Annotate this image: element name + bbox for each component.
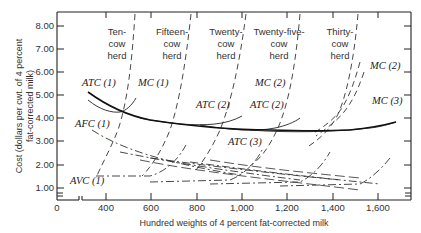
svg-text:1,000: 1,000 [230, 202, 254, 213]
svg-text:Ten-: Ten- [108, 26, 126, 37]
long-run-envelope-curve [88, 92, 396, 131]
svg-text:cow: cow [218, 38, 235, 49]
label-mc-2b: MC (2) [369, 60, 401, 72]
svg-text:1,200: 1,200 [275, 202, 299, 213]
curve-labels: ATC (1) MC (1) AFC (1) AVC (1) ATC (2) A… [69, 60, 403, 187]
label-atc-1: ATC (1) [81, 77, 116, 89]
svg-text:7.00: 7.00 [36, 43, 55, 54]
svg-text:1,400: 1,400 [321, 202, 345, 213]
svg-text:5.00: 5.00 [36, 89, 55, 100]
svg-text:Fifteen-: Fifteen- [156, 26, 188, 37]
svg-text:400: 400 [98, 202, 114, 213]
label-mc-3: MC (3) [371, 95, 403, 107]
herd-labels: Ten- cow herd Fifteen- cow herd Twenty- … [107, 26, 353, 61]
svg-text:cow: cow [332, 38, 349, 49]
svg-text:8.00: 8.00 [36, 20, 55, 31]
svg-text:herd: herd [216, 50, 235, 61]
svg-text:fat-corrected milk): fat-corrected milk) [25, 70, 35, 142]
label-mc-2a: MC (2) [254, 77, 286, 89]
svg-text:cow: cow [109, 38, 126, 49]
cost-curves-chart: 8.00 7.00 6.00 5.00 4.00 3.00 2.00 1.00 … [0, 0, 421, 233]
herd-label-thirty: Thirty- cow herd [327, 26, 354, 61]
svg-text:herd: herd [330, 50, 349, 61]
svg-text:6.00: 6.00 [36, 66, 55, 77]
svg-text:Twenty-five-: Twenty-five- [253, 26, 304, 37]
avc-curves [96, 145, 390, 186]
svg-text:Cost (dollars per cwt. of 4 pe: Cost (dollars per cwt. of 4 percent [14, 38, 24, 173]
svg-text:3.00: 3.00 [36, 135, 55, 146]
svg-text:4.00: 4.00 [36, 112, 55, 123]
svg-text:0: 0 [54, 202, 59, 213]
herd-label-twenty-five: Twenty-five- cow herd [253, 26, 304, 61]
svg-text:1.00: 1.00 [36, 182, 55, 193]
svg-text:Thirty-: Thirty- [327, 26, 354, 37]
y-tick-labels: 8.00 7.00 6.00 5.00 4.00 3.00 2.00 1.00 [36, 20, 55, 193]
label-atc-3: ATC (3) [227, 136, 262, 148]
herd-label-twenty: Twenty- cow herd [209, 26, 242, 61]
svg-text:herd: herd [162, 50, 181, 61]
svg-text:cow: cow [164, 38, 181, 49]
svg-text:600: 600 [143, 202, 159, 213]
svg-text:2.00: 2.00 [36, 159, 55, 170]
herd-label-fifteen: Fifteen- cow herd [156, 26, 188, 61]
svg-text:herd: herd [107, 50, 126, 61]
svg-text:1,600: 1,600 [366, 202, 390, 213]
svg-text:800: 800 [189, 202, 205, 213]
x-axis-label: Hundred weights of 4 percent fat-correct… [139, 218, 329, 228]
svg-text:cow: cow [271, 38, 288, 49]
label-mc-1: MC (1) [137, 77, 169, 89]
y-axis-label: Cost (dollars per cwt. of 4 percent fat-… [14, 38, 35, 173]
other-dashed [140, 160, 360, 190]
label-afc-1: AFC (1) [74, 118, 110, 130]
label-atc-2b: ATC (2) [249, 99, 284, 111]
x-tick-labels: 0 400 600 800 1,000 1,200 1,400 1,600 [54, 202, 390, 213]
svg-text:herd: herd [269, 50, 288, 61]
label-atc-2a: ATC (2) [195, 99, 230, 111]
herd-label-ten: Ten- cow herd [107, 26, 126, 61]
label-avc-1: AVC (1) [69, 175, 105, 187]
svg-text:Twenty-: Twenty- [209, 26, 242, 37]
